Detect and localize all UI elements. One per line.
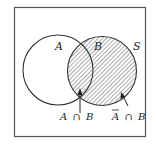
- svg-text:A ∩ B: A ∩ B: [111, 111, 145, 122]
- set-b-label: B: [93, 40, 102, 53]
- svg-text:A ∩ B: A ∩ B: [59, 111, 93, 122]
- venn-diagram: A B S A ∩ B A ∩ B: [0, 0, 156, 144]
- annotation-a-and-b: A ∩ B: [59, 111, 93, 122]
- annotation-not-a-and-b: A ∩ B: [111, 110, 145, 122]
- universe-label: S: [133, 40, 141, 53]
- set-a-label: A: [54, 40, 63, 53]
